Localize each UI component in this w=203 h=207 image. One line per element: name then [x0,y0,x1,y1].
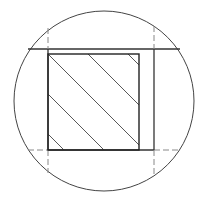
detail-circle-outline [14,11,194,191]
detail-drawing-canvas [0,0,203,207]
detail-diagram [0,0,203,207]
hatch-pattern [0,0,203,207]
hatched-square-section [48,54,139,150]
